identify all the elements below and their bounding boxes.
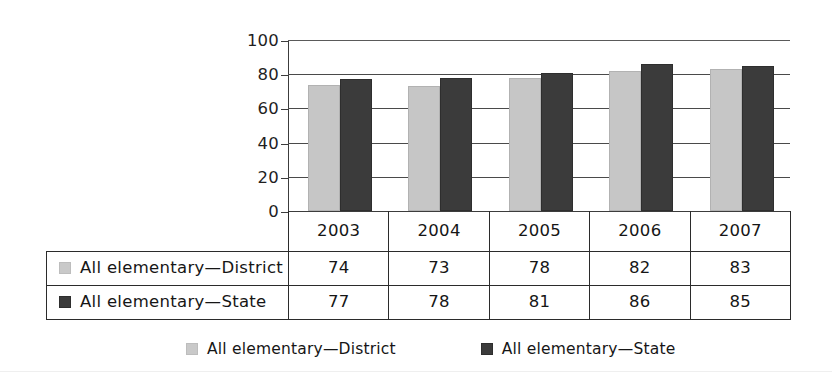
table-header-year: 2004 bbox=[389, 211, 489, 252]
y-axis-label-20: 20 bbox=[258, 170, 279, 187]
y-tick-20 bbox=[281, 178, 288, 179]
table-row-label-district: All elementary—District bbox=[47, 252, 289, 286]
y-tick-80 bbox=[281, 75, 288, 76]
bar-district-2005 bbox=[509, 78, 541, 211]
legend-label-district: All elementary—District bbox=[207, 340, 396, 358]
series-name-state: All elementary—State bbox=[80, 292, 267, 311]
table-cell-district-2006: 82 bbox=[590, 252, 690, 286]
table-cell-state-2005: 81 bbox=[489, 286, 589, 320]
bar-district-2004 bbox=[408, 86, 440, 211]
scan-artifact-line bbox=[0, 371, 832, 372]
bar-chart-figure: 100 80 60 40 20 0 bbox=[0, 0, 832, 379]
table-header-year: 2005 bbox=[489, 211, 589, 252]
table-cell-state-2007: 85 bbox=[690, 286, 790, 320]
table-cell-district-2004: 73 bbox=[389, 252, 489, 286]
series-name-district: All elementary—District bbox=[80, 258, 283, 277]
y-axis-label-40: 40 bbox=[258, 135, 279, 152]
data-table: 2003 2004 2005 2006 2007 All elementary—… bbox=[46, 211, 791, 320]
series-swatch-district-icon bbox=[59, 262, 71, 274]
chart-legend: All elementary—District All elementary—S… bbox=[186, 340, 675, 358]
table-cell-state-2004: 78 bbox=[389, 286, 489, 320]
bar-state-2006 bbox=[641, 64, 673, 211]
legend-swatch-state-icon bbox=[481, 343, 493, 355]
series-swatch-state-icon bbox=[59, 296, 71, 308]
bar-state-2005 bbox=[541, 73, 573, 212]
legend-label-state: All elementary—State bbox=[502, 340, 676, 358]
bar-district-2006 bbox=[609, 71, 641, 211]
y-tick-40 bbox=[281, 144, 288, 145]
bar-district-2007 bbox=[710, 69, 742, 211]
bar-state-2007 bbox=[742, 66, 774, 211]
table-header-year: 2003 bbox=[289, 211, 389, 252]
bar-state-2004 bbox=[440, 78, 472, 211]
y-axis-label-100: 100 bbox=[247, 33, 279, 50]
legend-item-district: All elementary—District bbox=[186, 340, 396, 358]
table-header-year: 2006 bbox=[590, 211, 690, 252]
table-cell-state-2006: 86 bbox=[590, 286, 690, 320]
plot-area: 100 80 60 40 20 0 bbox=[288, 40, 790, 211]
table-header-row: 2003 2004 2005 2006 2007 bbox=[47, 211, 791, 252]
bar-state-2003 bbox=[340, 79, 372, 211]
table-header-year: 2007 bbox=[690, 211, 790, 252]
table-row-label-state: All elementary—State bbox=[47, 286, 289, 320]
gridline-100: 100 bbox=[288, 40, 790, 41]
y-axis-label-80: 80 bbox=[258, 67, 279, 84]
table-row: All elementary—State 77 78 81 86 85 bbox=[47, 286, 791, 320]
table-corner-cell bbox=[47, 211, 289, 252]
table-cell-district-2003: 74 bbox=[289, 252, 389, 286]
table-cell-district-2007: 83 bbox=[690, 252, 790, 286]
legend-swatch-district-icon bbox=[186, 343, 198, 355]
legend-item-state: All elementary—State bbox=[481, 340, 676, 358]
table-cell-district-2005: 78 bbox=[489, 252, 589, 286]
bar-district-2003 bbox=[308, 85, 340, 212]
y-axis-label-60: 60 bbox=[258, 101, 279, 118]
y-tick-100 bbox=[281, 41, 288, 42]
table-row: All elementary—District 74 73 78 82 83 bbox=[47, 252, 791, 286]
table-cell-state-2003: 77 bbox=[289, 286, 389, 320]
y-tick-60 bbox=[281, 109, 288, 110]
